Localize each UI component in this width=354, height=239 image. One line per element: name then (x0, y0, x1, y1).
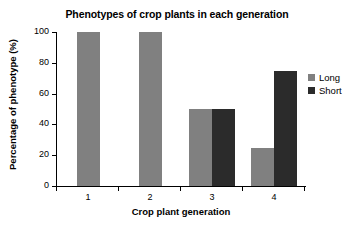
x-tick-label: 2 (119, 192, 181, 202)
bar-chart: Phenotypes of crop plants in each genera… (0, 0, 354, 239)
x-tick-label: 3 (181, 192, 243, 202)
x-tick (304, 187, 305, 191)
y-axis-title: Percentage of phenotype (%) (7, 20, 18, 190)
legend-label: Long (319, 72, 340, 83)
x-axis-line (56, 186, 306, 187)
x-tick (180, 187, 181, 191)
chart-title: Phenotypes of crop plants in each genera… (0, 8, 354, 20)
y-tick: 80 (52, 63, 56, 64)
legend-swatch-icon (308, 87, 315, 94)
plot-area (57, 32, 305, 186)
y-tick-label: 0 (44, 180, 49, 190)
x-tick (242, 187, 243, 191)
y-tick-label: 60 (39, 88, 49, 98)
bar-long-gen-2 (139, 32, 162, 186)
bar-long-gen-3 (189, 109, 212, 186)
legend-item-short: Short (308, 85, 342, 96)
x-axis-title: Crop plant generation (57, 206, 305, 217)
y-tick-label: 100 (34, 26, 49, 36)
x-tick-label: 1 (57, 192, 119, 202)
y-tick: 60 (52, 94, 56, 95)
legend-label: Short (319, 85, 342, 96)
y-tick-label: 40 (39, 118, 49, 128)
y-tick: 100 (52, 32, 56, 33)
bar-short-gen-3 (212, 109, 235, 186)
legend-item-long: Long (308, 72, 342, 83)
y-tick: 20 (52, 155, 56, 156)
bar-long-gen-4 (251, 148, 274, 187)
chart-legend: LongShort (308, 72, 342, 98)
bar-short-gen-4 (274, 71, 297, 187)
y-tick: 40 (52, 124, 56, 125)
y-tick-label: 20 (39, 149, 49, 159)
x-tick (56, 187, 57, 191)
bar-long-gen-1 (77, 32, 100, 186)
legend-swatch-icon (308, 74, 315, 81)
x-tick (118, 187, 119, 191)
y-tick-label: 80 (39, 57, 49, 67)
x-tick-label: 4 (243, 192, 305, 202)
